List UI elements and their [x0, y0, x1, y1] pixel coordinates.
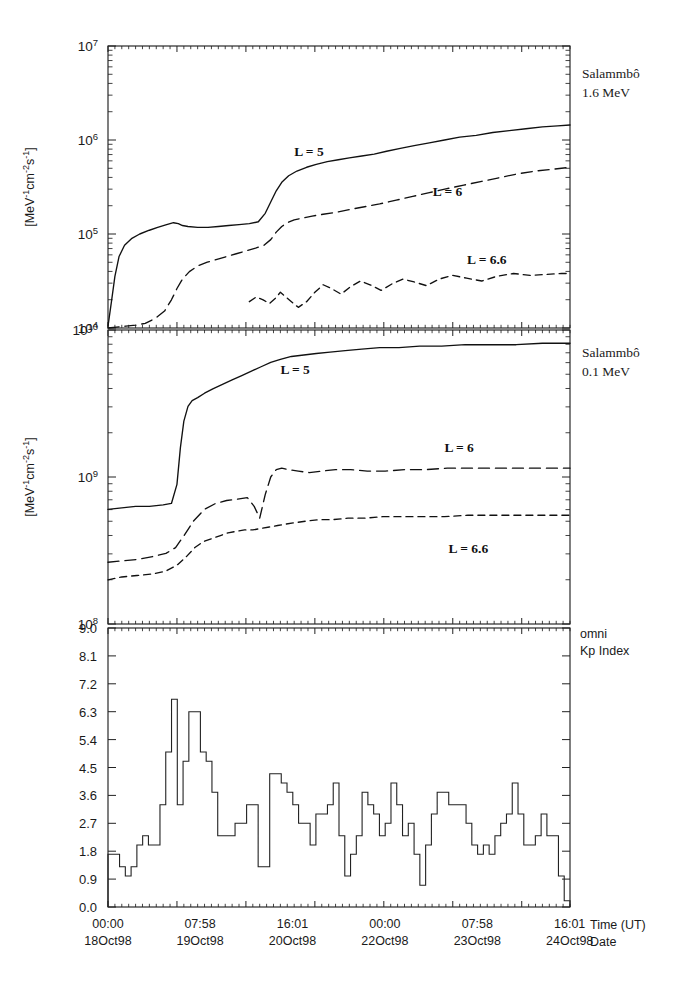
xtick-date-5: 24Oct98 [546, 934, 593, 948]
yaxis-label-panel1: [MeV-1cm-2s-1] [21, 147, 37, 227]
xtick-time-4: 07:58 [462, 917, 493, 931]
ytick-label-kp-2: 1.8 [79, 844, 97, 859]
xtick-date-0: 18Oct98 [84, 934, 131, 948]
curve-label-p2-6.6: L = 6.6 [449, 541, 489, 556]
panel2-note-line1: Salammbô [582, 345, 640, 360]
ytick-label-kp-9: 8.1 [79, 649, 97, 664]
ytick-label-kp-4: 3.6 [79, 788, 97, 803]
curve-label-p1-5: L = 5 [294, 144, 324, 159]
curve-label-p1-6.6: L = 6.6 [467, 252, 507, 267]
xtick-date-3: 22Oct98 [361, 934, 408, 948]
xtick-date-4: 23Oct98 [454, 934, 501, 948]
xtick-time-2: 16:01 [277, 917, 308, 931]
xaxis-name-line2: Date [590, 935, 616, 949]
ytick-label-kp-6: 5.4 [79, 733, 97, 748]
yaxis-label-panel2: [MeV-1cm-2s-1] [21, 437, 37, 517]
ytick-label-kp-1: 0.9 [79, 872, 97, 887]
panel3-note-line1: omni [580, 627, 607, 641]
panel1-note-line1: Salammbô [582, 66, 640, 81]
ytick-label-kp-10: 9.0 [79, 621, 97, 636]
figure-background [0, 0, 681, 995]
xtick-time-5: 16:01 [554, 917, 585, 931]
ytick-label-kp-5: 4.5 [79, 761, 97, 776]
panel2-note-line2: 0.1 MeV [582, 364, 630, 379]
xtick-date-2: 20Oct98 [269, 934, 316, 948]
panel1-note-line2: 1.6 MeV [582, 85, 630, 100]
curve-label-p1-6: L = 6 [433, 184, 463, 199]
ytick-label-kp-7: 6.3 [79, 705, 97, 720]
xaxis-name-line1: Time (UT) [590, 918, 646, 932]
figure-root: 10710610510410101091080.00.91.82.73.64.5… [0, 0, 681, 995]
ytick-label-kp-0: 0.0 [79, 900, 97, 915]
ytick-label-kp-8: 7.2 [79, 677, 97, 692]
ytick-label-kp-3: 2.7 [79, 816, 97, 831]
xtick-date-1: 19Oct98 [176, 934, 223, 948]
panel3-note-line2: Kp Index [580, 644, 630, 658]
curve-label-p2-5: L = 5 [280, 362, 310, 377]
xtick-time-1: 07:58 [184, 917, 215, 931]
xtick-time-0: 00:00 [92, 917, 123, 931]
xtick-time-3: 00:00 [369, 917, 400, 931]
curve-label-p2-6: L = 6 [444, 440, 474, 455]
